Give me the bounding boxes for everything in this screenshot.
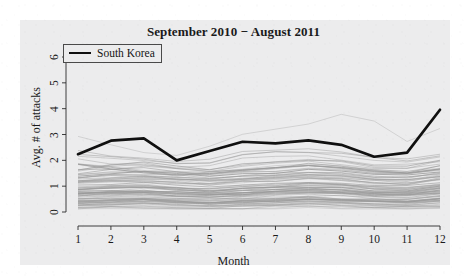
plot-canvas — [0, 0, 467, 279]
y-tick-label: 6 — [48, 49, 60, 65]
background-series-layer — [78, 114, 440, 209]
chart-title: September 2010 − August 2011 — [0, 24, 467, 40]
y-tick-label: 4 — [48, 101, 60, 117]
y-tick-label: 1 — [48, 178, 60, 194]
x-tick-label: 9 — [338, 233, 344, 245]
x-tick-label: 6 — [240, 233, 246, 245]
chart-figure: September 2010 − August 2011 Month Avg. … — [0, 0, 467, 279]
x-tick-label: 11 — [402, 233, 413, 245]
x-tick-label: 12 — [434, 233, 446, 245]
x-tick-label: 5 — [207, 233, 213, 245]
x-tick-label: 2 — [108, 233, 114, 245]
x-tick-label: 4 — [174, 233, 180, 245]
x-tick-label: 10 — [368, 233, 380, 245]
legend-label: South Korea — [97, 47, 155, 59]
legend-line-swatch — [69, 52, 91, 54]
x-tick-label: 7 — [273, 233, 279, 245]
y-axis-title: Avg. # of attacks — [29, 48, 44, 208]
x-axis-title: Month — [0, 254, 467, 269]
highlight-series-layer — [78, 110, 440, 161]
legend: South Korea — [63, 44, 162, 63]
y-tick-label: 2 — [48, 152, 60, 168]
x-tick-label: 3 — [141, 233, 147, 245]
y-tick-label: 5 — [48, 75, 60, 91]
x-tick-label: 1 — [75, 233, 81, 245]
y-tick-label: 0 — [48, 204, 60, 220]
x-tick-label: 8 — [305, 233, 311, 245]
y-tick-label: 3 — [48, 127, 60, 143]
